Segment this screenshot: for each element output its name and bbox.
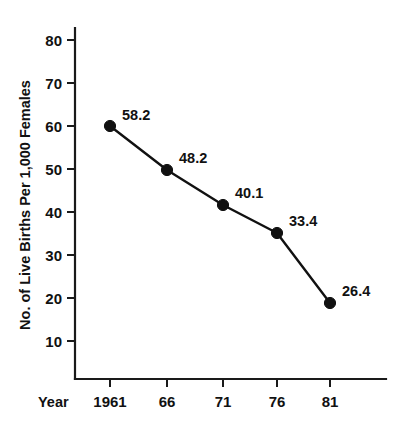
y-tick-label-7: 10 (45, 333, 62, 350)
y-axis-title: No. of Live Births Per 1,000 Females (17, 80, 33, 330)
chart-container: 80 70 60 50 40 30 20 10 1961 66 71 76 81… (0, 0, 404, 437)
y-tick-label-3: 50 (45, 161, 62, 178)
y-tick-label-5: 30 (45, 247, 62, 264)
x-tick-label-0: 1961 (93, 393, 126, 410)
data-label-76: 33.4 (289, 213, 317, 229)
data-point-marker-81[interactable] (324, 297, 335, 308)
y-tick-label-2: 60 (45, 118, 62, 135)
line-chart-plot: 80 70 60 50 40 30 20 10 1961 66 71 76 81… (0, 0, 404, 437)
y-tick-label-4: 40 (45, 204, 62, 221)
y-tick-label-0: 80 (45, 32, 62, 49)
data-point-marker-76[interactable] (271, 227, 282, 238)
data-point-marker-1961[interactable] (104, 120, 115, 131)
data-point-marker-66[interactable] (161, 164, 172, 175)
x-tick-label-1: 66 (159, 393, 176, 410)
x-axis-title: Year (38, 394, 69, 410)
x-tick-label-3: 76 (269, 393, 286, 410)
y-tick-label-1: 70 (45, 75, 62, 92)
data-label-71: 40.1 (235, 185, 263, 201)
x-tick-label-4: 81 (322, 393, 339, 410)
data-label-66: 48.2 (179, 150, 207, 166)
y-tick-label-6: 20 (45, 290, 62, 307)
data-label-1961: 58.2 (122, 107, 150, 123)
data-label-81: 26.4 (342, 283, 370, 299)
data-point-marker-71[interactable] (217, 199, 228, 210)
x-tick-label-2: 71 (215, 393, 232, 410)
